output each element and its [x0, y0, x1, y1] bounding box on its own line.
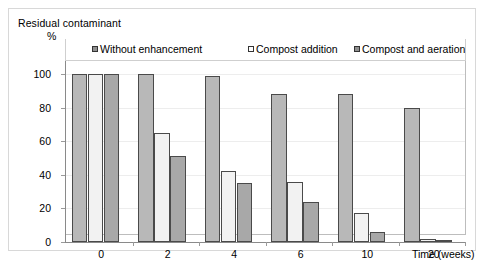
x-tick-label: 4 — [231, 248, 237, 260]
legend-entry: Without enhancement — [92, 43, 202, 56]
bar — [72, 74, 88, 242]
y-tick-label: 40 — [9, 170, 51, 181]
legend-label: Without enhancement — [100, 43, 202, 55]
chart-title: Residual contaminant — [18, 17, 121, 29]
chart-legend: Without enhancementCompost additionCompo… — [65, 39, 466, 61]
bar — [138, 74, 154, 242]
x-tick-mark — [399, 242, 400, 246]
legend-entry: Compost addition — [248, 43, 338, 56]
x-tick-mark — [332, 242, 333, 246]
legend-label: Compost and aeration — [362, 43, 465, 55]
bar — [303, 202, 319, 242]
bar — [287, 182, 303, 242]
y-tick-label: 20 — [9, 203, 51, 214]
y-tick-label: 80 — [9, 103, 51, 114]
legend-swatch-icon — [354, 46, 360, 52]
bar — [237, 183, 253, 242]
x-tick-mark — [465, 242, 466, 246]
gridline — [66, 74, 465, 75]
x-tick-label: 0 — [98, 248, 104, 260]
bar — [436, 240, 452, 242]
bar — [170, 156, 186, 242]
x-tick-mark — [133, 242, 134, 246]
y-tick-label: 0 — [9, 237, 51, 248]
plot-area — [66, 40, 465, 234]
bar — [338, 94, 354, 242]
y-tick-label: 100 — [9, 69, 51, 80]
bar — [104, 74, 120, 242]
legend-label: Compost addition — [256, 43, 338, 55]
x-axis-label: Time (weeks) — [412, 248, 475, 260]
bar — [154, 133, 170, 242]
bar — [205, 76, 221, 242]
legend-swatch-icon — [92, 46, 98, 52]
bar — [370, 232, 386, 242]
bar — [221, 171, 237, 242]
x-tick-mark — [199, 242, 200, 246]
x-tick-label: 2 — [165, 248, 171, 260]
bar — [271, 94, 287, 242]
x-tick-label: 10 — [361, 248, 373, 260]
legend-entry: Compost and aeration — [354, 43, 465, 56]
x-tick-label: 6 — [298, 248, 304, 260]
bar — [420, 239, 436, 242]
y-tick-label: 60 — [9, 136, 51, 147]
x-tick-mark — [266, 242, 267, 246]
bar — [404, 108, 420, 242]
bar — [354, 213, 370, 242]
legend-swatch-icon — [248, 46, 254, 52]
y-axis-label: % — [47, 30, 56, 42]
bar — [88, 74, 104, 242]
chart-figure: Residual contaminant % 020406080100 0246… — [8, 8, 476, 251]
